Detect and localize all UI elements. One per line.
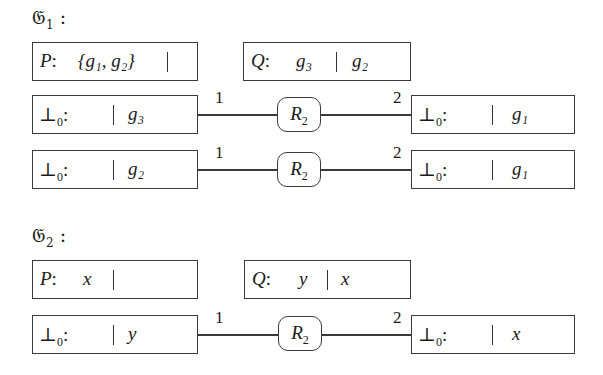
q-right-value: g₂: [352, 50, 368, 72]
separator-bar: [113, 270, 114, 290]
graph-index: 2: [46, 236, 54, 250]
separator-bar: [167, 52, 168, 72]
right-value: g₁: [512, 158, 528, 180]
graph-1-title: 𝔊1 :: [32, 6, 66, 32]
port-label-2: 2: [393, 88, 402, 108]
separator-bar: [492, 105, 493, 125]
q-label: Q:: [251, 50, 270, 72]
graph-1-row-2-left-box: ⊥0: g₂: [32, 150, 198, 189]
right-value: y: [128, 323, 136, 345]
right-value: g₁: [512, 103, 528, 125]
graph-1-row-1-r-node: R2: [277, 97, 321, 132]
separator-bar: [113, 105, 114, 125]
q-left-value: g₃: [296, 50, 312, 72]
graph-2-q-box: Q: y x: [244, 260, 411, 299]
p-left-value: {g₁, g₂}: [78, 50, 135, 72]
bottom-label: ⊥0:: [418, 323, 447, 350]
edge-line: [321, 334, 412, 336]
separator-bar: [327, 270, 328, 290]
separator-bar: [492, 325, 493, 345]
edge-line: [197, 169, 277, 171]
graph-1-row-1-right-box: ⊥0: g₁: [411, 95, 575, 134]
p-left-value: x: [83, 268, 91, 290]
graph-1-p-box: P: {g₁, g₂}: [32, 42, 198, 81]
port-label-2: 2: [393, 143, 402, 163]
graph-1-row-1-left-box: ⊥0: g₃: [32, 95, 198, 134]
title-colon: :: [60, 6, 66, 28]
graph-2-row-1-right-box: ⊥0: x: [411, 315, 575, 354]
edge-line: [197, 334, 278, 336]
separator-bar: [113, 325, 114, 345]
graph-index: 1: [46, 18, 54, 32]
edge-line: [320, 169, 412, 171]
bottom-label: ⊥0:: [418, 158, 447, 185]
graph-symbol: 𝔊: [32, 224, 46, 246]
graph-2-row-1-r-node: R2: [278, 316, 322, 351]
separator-bar: [492, 160, 493, 180]
bottom-label: ⊥0:: [39, 158, 68, 185]
port-label-1: 1: [215, 88, 224, 108]
graph-2-title: 𝔊2 :: [32, 224, 66, 250]
q-right-value: x: [341, 268, 349, 290]
graph-2-row-1-left-box: ⊥0: y: [32, 315, 198, 354]
right-value: x: [512, 323, 520, 345]
separator-bar: [113, 160, 114, 180]
title-colon: :: [60, 224, 66, 246]
graph-2-p-box: P: x: [32, 260, 198, 299]
edge-line: [197, 114, 277, 116]
separator-bar: [336, 52, 337, 72]
p-label: P:: [40, 50, 57, 72]
graph-1-q-box: Q: g₃ g₂: [243, 42, 411, 81]
right-value: g₂: [128, 158, 144, 180]
port-label-1: 1: [215, 308, 224, 328]
bottom-label: ⊥0:: [39, 323, 68, 350]
graph-symbol: 𝔊: [32, 6, 46, 28]
graph-1-row-2-r-node: R2: [277, 152, 321, 187]
edge-line: [320, 114, 412, 116]
bottom-label: ⊥0:: [418, 103, 447, 130]
bottom-label: ⊥0:: [39, 103, 68, 130]
q-left-value: y: [299, 268, 307, 290]
q-label: Q:: [252, 268, 271, 290]
port-label-1: 1: [215, 143, 224, 163]
graph-1-row-2-right-box: ⊥0: g₁: [411, 150, 575, 189]
p-label: P:: [40, 268, 57, 290]
port-label-2: 2: [393, 308, 402, 328]
right-value: g₃: [128, 103, 144, 125]
